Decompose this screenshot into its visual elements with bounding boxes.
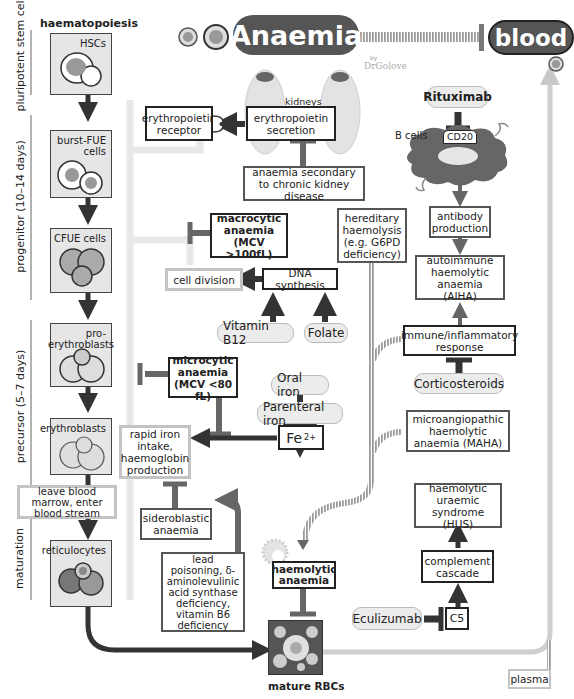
iron-intake-box: rapid iron intake, haemoglobin productio… — [119, 425, 191, 479]
b-cells-label: B cells — [395, 130, 427, 141]
stage-pluripotent: pluripotent stem cell — [14, 12, 27, 112]
cell-reticulocytes: reticulocytes — [50, 540, 112, 607]
folate-pill: Folate — [304, 323, 348, 343]
byline-by: by — [370, 54, 377, 61]
cell-erythroblasts: erythroblasts — [50, 418, 112, 475]
fe-charge: 2+ — [304, 432, 316, 444]
erythroblast-icon — [51, 419, 111, 474]
maha-box: microangiopathic haemolytic anaemia (MAH… — [406, 410, 510, 452]
epo-receptor-box: erythropoietin receptor — [145, 106, 213, 141]
cd20-box: CD20 — [443, 130, 477, 144]
cell-division-box: cell division — [165, 268, 243, 291]
eculizumab-pill: Eculizumab — [352, 607, 422, 630]
microcytic-title: microcytic anaemia — [172, 354, 233, 378]
parenteral-iron-pill: Parenteral iron — [257, 403, 343, 424]
epo-secretion-box: erythropoietin secretion — [246, 106, 336, 141]
macrocytic-title: macrocytic anaemia — [215, 212, 283, 236]
microcytic-mcv: (MCV <80 fL) — [173, 378, 233, 402]
cell-pro-erythroblasts: pro-erythroblasts — [50, 323, 112, 387]
haemolytic-anaemia-box: haemolytic anaemia — [272, 561, 336, 589]
dna-synthesis-box: DNA synthesis — [262, 268, 338, 290]
stage-precursor: precursor (5–7 days) — [14, 342, 27, 472]
antibody-production-box: antibody production — [429, 206, 491, 238]
stage-progenitor: progenitor (10–14 days) — [14, 132, 27, 282]
pro-erythroblast-icon — [51, 324, 111, 386]
receptor-icon — [211, 112, 227, 136]
hsc-icon — [51, 34, 111, 94]
byline-author: DrGolove — [364, 61, 407, 71]
sideroblastic-box: sideroblastic anaemia — [140, 508, 212, 540]
macrocytic-mcv: (MCV >100fL) — [215, 236, 283, 260]
reticulocyte-icon — [51, 541, 111, 606]
mature-rbcs-label: mature RBCs — [268, 680, 345, 692]
hereditary-haemolysis-box: hereditary haemolysis (e.g. G6PD deficie… — [337, 208, 407, 263]
haematopoiesis-heading: haematopoiesis — [40, 17, 138, 30]
sideroblastic-causes-box: lead poisoning, δ-aminolevulinic acid sy… — [161, 552, 245, 632]
rituximab-pill: Rituximab — [427, 86, 488, 108]
fe-symbol: Fe — [286, 432, 302, 444]
fe-box: Fe2+ — [278, 425, 324, 450]
ckd-box: anaemia secondary to chronic kidney dise… — [243, 166, 365, 201]
microcytic-box: microcytic anaemia (MCV <80 fL) — [168, 357, 238, 398]
hus-box: haemolytic uraemic syndrome (HUS) — [414, 483, 502, 528]
cell-burst-fue: burst-FUE cells — [50, 130, 112, 198]
plasma-box: plasma — [508, 669, 551, 689]
anaemia-title: Anaemia — [233, 15, 359, 55]
oral-iron-pill: Oral iron — [271, 375, 329, 395]
leave-marrow-box: leave blood marrow, enter blood stream — [17, 485, 117, 519]
immune-response-box: immune/inflammatory response — [403, 325, 516, 356]
mature-rbcs-icon — [268, 620, 323, 675]
cfue-icon — [51, 229, 111, 292]
complement-cascade-box: complement cascade — [421, 550, 494, 583]
aiha-box: autoimmune haemolytic anaemia (AIHA) — [415, 255, 505, 300]
vitamin-b12-pill: Vitamin B12 — [217, 323, 294, 343]
burst-fue-icon — [51, 131, 111, 197]
macrocytic-box: macrocytic anaemia (MCV >100fL) — [210, 213, 288, 258]
cell-cfue: CFUE cells — [50, 228, 112, 293]
corticosteroids-pill: Corticosteroids — [414, 373, 504, 394]
cell-hscs: HSCs — [50, 33, 112, 95]
blood-title: blood — [488, 20, 574, 55]
stage-maturation: maturation — [13, 519, 26, 599]
c5-box: C5 — [445, 607, 469, 630]
